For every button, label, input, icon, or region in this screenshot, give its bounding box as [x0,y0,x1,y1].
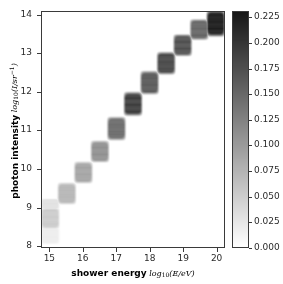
colorbar-tick-mark [249,17,252,18]
y-tick-mark [37,246,41,247]
x-tick-label: 19 [170,253,196,264]
colorbar-tick-label: 0.225 [254,11,280,22]
colorbar-tick-label: 0.100 [254,139,280,150]
colorbar-tick-mark [249,145,252,146]
x-tick-label: 18 [137,253,163,264]
y-tick-mark [37,53,41,54]
colorbar-tick-label: 0.200 [254,37,280,48]
y-axis-label-bold: photon intensity [9,115,19,199]
y-tick-mark [37,15,41,16]
colorbar-tick-label: 0.050 [254,191,280,202]
colorbar[interactable] [232,11,249,248]
colorbar-tick-mark [249,69,252,70]
x-tick-mark [150,248,151,252]
colorbar-tick-label: 0.000 [254,242,280,253]
y-tick-label: 8 [10,240,32,251]
y-axis-label: photon intensity log10(I/sr−1) [9,63,20,199]
x-tick-mark [183,248,184,252]
x-tick-label: 16 [70,253,96,264]
colorbar-tick-mark [249,222,252,223]
colorbar-tick-mark [249,94,252,95]
plot-axes[interactable] [41,11,225,248]
colorbar-tick-mark [249,248,252,249]
x-tick-mark [49,248,50,252]
colorbar-gradient [233,12,248,247]
y-tick-mark [37,208,41,209]
colorbar-tick-label: 0.150 [254,88,280,99]
figure-canvas: 151617181920 891011121314 shower energy … [0,0,283,284]
x-tick-label: 15 [36,253,62,264]
x-axis-label: shower energy log10(E/eV) [41,268,225,278]
colorbar-tick-mark [249,197,252,198]
x-axis-label-math: log10(E/eV) [147,269,195,278]
heatmap-image [42,12,224,247]
y-axis-label-math: log10(I/sr−1) [10,63,19,115]
x-tick-label: 20 [204,253,230,264]
y-tick-label: 14 [10,9,32,20]
x-tick-mark [83,248,84,252]
y-tick-mark [37,130,41,131]
colorbar-tick-label: 0.175 [254,63,280,74]
y-tick-mark [37,92,41,93]
colorbar-tick-label: 0.025 [254,216,280,227]
x-tick-label: 17 [103,253,129,264]
x-tick-mark [116,248,117,252]
x-tick-mark [217,248,218,252]
y-tick-mark [37,169,41,170]
colorbar-tick-mark [249,171,252,172]
colorbar-tick-mark [249,43,252,44]
y-axis-label-wrapper: photon intensity log10(I/sr−1) [7,31,21,231]
colorbar-tick-label: 0.075 [254,165,280,176]
x-axis-label-bold: shower energy [71,268,146,278]
colorbar-tick-label: 0.125 [254,114,280,125]
colorbar-tick-mark [249,120,252,121]
